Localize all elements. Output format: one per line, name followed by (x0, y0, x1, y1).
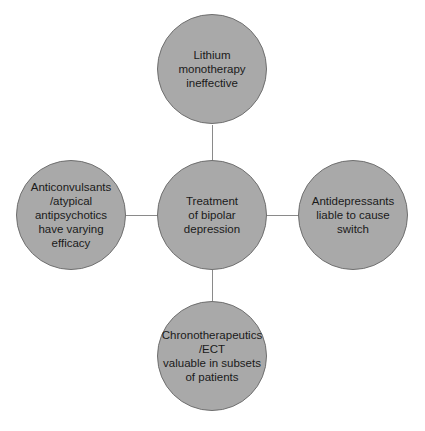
node-label: Lithium monotherapy ineffective (158, 48, 266, 90)
connector-right (266, 215, 299, 216)
node-lithium-monotherapy: Lithium monotherapy ineffective (157, 14, 267, 124)
node-center-treatment: Treatment of bipolar depression (157, 160, 267, 270)
node-chronotherapeutics: Chronotherapeutics /ECT valuable in subs… (157, 301, 267, 411)
connector-top (212, 125, 213, 161)
node-anticonvulsants: Anticonvulsants /atypical antipsychotics… (16, 160, 126, 270)
node-label: Treatment of bipolar depression (180, 194, 244, 236)
node-label: Anticonvulsants /atypical antipsychotics… (27, 180, 116, 250)
connector-bottom (212, 270, 213, 301)
node-label: Chronotherapeutics /ECT valuable in subs… (158, 328, 266, 384)
connector-left (126, 215, 158, 216)
node-label: Antidepressants liable to cause switch (308, 194, 398, 236)
node-antidepressants: Antidepressants liable to cause switch (298, 160, 408, 270)
diagram-canvas: Lithium monotherapy ineffective Treatmen… (0, 0, 425, 431)
